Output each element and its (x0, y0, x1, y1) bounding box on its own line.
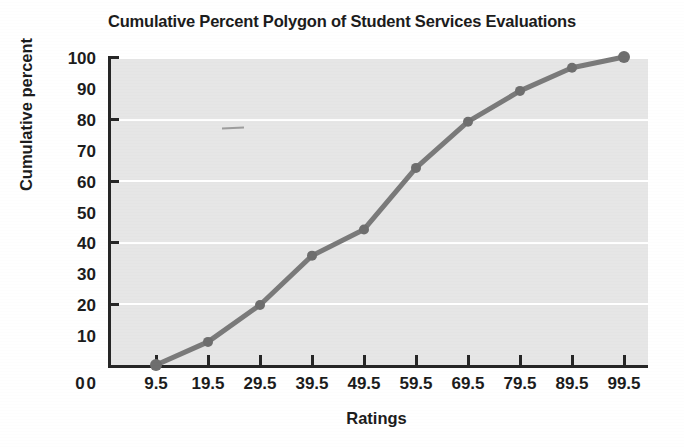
data-point (150, 359, 162, 371)
data-point (618, 51, 630, 63)
data-point (515, 86, 525, 96)
cumulative-percent-line (156, 57, 624, 365)
cumulative-percent-markers (150, 51, 630, 371)
data-point (203, 337, 213, 347)
data-point (567, 63, 577, 73)
data-point (463, 117, 473, 127)
data-point (255, 300, 265, 310)
cumulative-percent-polygon-chart: Cumulative Percent Polygon of Student Se… (0, 0, 684, 447)
data-series-layer (0, 0, 684, 447)
data-point (411, 163, 421, 173)
data-point (359, 224, 369, 234)
data-point (307, 251, 317, 261)
